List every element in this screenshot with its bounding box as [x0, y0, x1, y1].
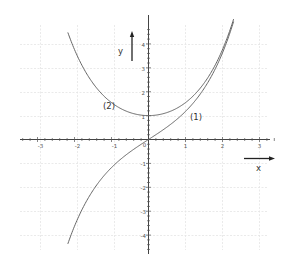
function-plot: -3 -2 -1 0 1 2 3 1 2 3 4 -1 -2 -3 -4 (2)…	[0, 0, 298, 280]
x-tick-label: 3	[258, 143, 262, 149]
x-tick-label: 2	[221, 143, 225, 149]
curve-label-2: (2)	[103, 101, 115, 111]
y-tick-label: 1	[142, 114, 146, 120]
x-tick-label: -3	[38, 143, 44, 149]
curve-cosh	[68, 19, 234, 115]
y-tick-label: -2	[141, 185, 146, 191]
curve-sinh	[68, 22, 234, 244]
x-axis-arrow-icon	[244, 156, 275, 160]
y-tick-label: -1	[141, 161, 146, 167]
y-tick-label: -3	[141, 209, 147, 215]
y-tick-label: 4	[142, 42, 146, 48]
x-tick-label: 1	[184, 143, 188, 149]
y-axis-arrow-icon	[130, 31, 134, 61]
grid-lines	[20, 25, 268, 250]
x-tick-labels: -3 -2 -1 0 1 2 3	[38, 142, 262, 149]
y-tick-label: 2	[142, 90, 146, 96]
x-axis-label: x	[256, 163, 261, 173]
y-axis-label: y	[118, 46, 123, 56]
curve-label-1: (1)	[190, 112, 202, 122]
x-tick-label: -1	[112, 143, 117, 149]
y-tick-label: -4	[141, 233, 147, 239]
x-tick-label: -2	[75, 143, 80, 149]
y-tick-label: 3	[142, 66, 146, 72]
